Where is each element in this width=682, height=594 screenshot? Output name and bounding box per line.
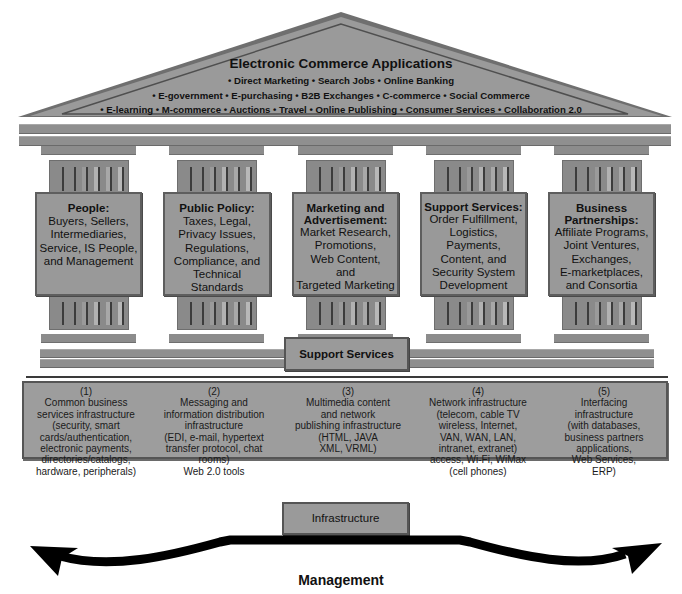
pillar-business-partnerships: Business Partnerships: Affiliate Program…	[548, 192, 655, 296]
pillar-marketing-advertisement: Marketing and Advertisement: Market Rese…	[292, 192, 399, 296]
column-shaft-bottom	[177, 295, 257, 330]
roof-line-3: • E-learning • M-commerce • Auctions • T…	[0, 104, 682, 115]
pillar-people: People: Buyers, Sellers, Intermediaries,…	[35, 192, 142, 296]
infrastructure-item-2: (2) Messaging and information distributi…	[150, 386, 278, 477]
pillar-cap-top	[41, 146, 136, 155]
pillar-cap-top	[169, 146, 264, 155]
infrastructure-label: Infrastructure	[312, 512, 380, 524]
pillar-base	[426, 334, 521, 343]
pillar-title: Partnerships:	[550, 215, 653, 226]
column-shaft-top	[177, 160, 257, 196]
roof-line-1: • Direct Marketing • Search Jobs • Onlin…	[0, 75, 682, 86]
infrastructure-panel: (1) Common business services infrastruct…	[22, 381, 668, 459]
entablature-band-2	[19, 136, 671, 146]
management-label: Management	[0, 572, 682, 588]
column-shaft-top	[49, 160, 129, 196]
divider-line	[26, 376, 668, 378]
support-services-label-box: Support Services	[284, 337, 409, 371]
pillar-title: Public Policy:	[165, 202, 269, 215]
pillar-base	[169, 334, 264, 343]
roof-line-2: • E-government • E-purchasing • B2B Exch…	[0, 90, 682, 101]
infrastructure-item-5: (5) Interfacing infrastructure (with dat…	[548, 386, 660, 477]
column-shaft-bottom	[49, 295, 129, 330]
pillar-title: Advertisement:	[294, 215, 397, 226]
infrastructure-item-3: (3) Multimedia content and network publi…	[286, 386, 410, 454]
column-shaft-top	[562, 160, 642, 196]
entablature-band-1	[19, 124, 671, 134]
pillar-base	[554, 334, 649, 343]
infrastructure-item-4: (4) Network infrastructure (telecom, cab…	[418, 386, 538, 477]
pillar-cap-top	[298, 146, 393, 155]
pillar-title: People:	[37, 202, 140, 215]
support-services-label: Support Services	[299, 348, 394, 360]
column-shaft-bottom	[562, 295, 642, 330]
pillar-title: Support Services:	[422, 202, 525, 213]
pillar-cap-top	[554, 146, 649, 155]
column-shaft-top	[434, 160, 514, 196]
column-shaft-bottom	[434, 295, 514, 330]
pillar-cap-top	[426, 146, 521, 155]
column-shaft-top	[306, 160, 386, 196]
pillar-base	[41, 334, 136, 343]
roof-title: Electronic Commerce Applications	[0, 56, 682, 71]
pillar-support-services: Support Services: Order Fulfillment, Log…	[420, 192, 527, 296]
pillar-public-policy: Public Policy: Taxes, Legal, Privacy Iss…	[163, 192, 271, 296]
column-shaft-bottom	[306, 295, 386, 330]
infrastructure-item-1: (1) Common business services infrastruct…	[30, 386, 142, 477]
